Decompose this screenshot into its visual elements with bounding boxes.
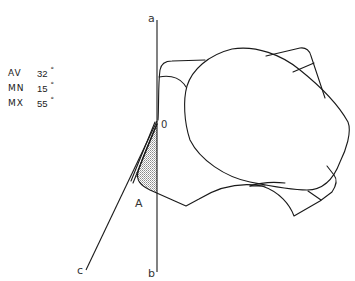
- bone-head: [185, 48, 350, 190]
- shaded-angle-region: [135, 124, 157, 193]
- bone-outline-lower: [138, 124, 337, 216]
- bone-ridge-left: [159, 76, 186, 87]
- label-origin: 0: [161, 119, 167, 130]
- bone-diagram: a b c 0 A: [0, 0, 355, 281]
- label-point-a: A: [135, 197, 143, 210]
- label-line-c: c: [77, 264, 83, 277]
- label-line-b: b: [148, 267, 155, 280]
- bone-outline-upper-left: [158, 60, 205, 120]
- label-line-a: a: [148, 12, 155, 25]
- axis-line-c: [86, 121, 157, 270]
